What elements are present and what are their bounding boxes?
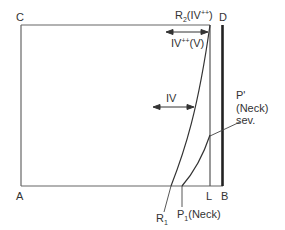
- r1-leader: [164, 186, 171, 212]
- r2-label: R2(IV++): [175, 9, 213, 23]
- corner-b-label: B: [221, 190, 228, 202]
- p-prime-label: P': [236, 89, 245, 101]
- p-prime-sev-label: sev.: [236, 114, 255, 126]
- corner-d-label: D: [219, 11, 227, 23]
- diagram: C D A B L R2(IV++) IV++(V) IV P' (Neck) …: [0, 0, 285, 230]
- p1-neck-label: P1(Neck): [177, 208, 221, 222]
- p-prime-neck-label: (Neck): [236, 102, 268, 114]
- l-label: L: [206, 190, 212, 202]
- corner-a-label: A: [16, 190, 24, 202]
- corner-c-label: C: [16, 11, 24, 23]
- iv-label: IV: [166, 92, 177, 104]
- iv-arrow: [153, 105, 194, 110]
- r1-label: R1: [156, 212, 168, 226]
- iv-pp-arrow: [166, 30, 208, 35]
- iv-pp-v-label: IV++(V): [171, 37, 204, 49]
